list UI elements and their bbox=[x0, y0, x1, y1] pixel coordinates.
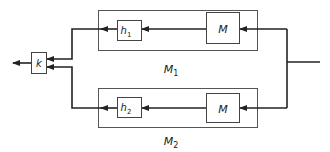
m-block-top-label: M bbox=[218, 23, 228, 36]
h1-subscript: 1 bbox=[127, 31, 131, 39]
k-block: k bbox=[32, 53, 47, 74]
h2-block: h2 bbox=[118, 98, 142, 118]
m-block-bottom: M bbox=[207, 94, 240, 123]
arrow-h2-to-k bbox=[47, 67, 117, 108]
svg-text:M2: M2 bbox=[164, 135, 179, 150]
group-m2-label: M bbox=[164, 135, 174, 148]
m-block-top: M bbox=[207, 13, 240, 44]
group-m1-subscript: 1 bbox=[173, 69, 178, 78]
h2-subscript: 2 bbox=[127, 108, 131, 116]
group-m2-subscript: 2 bbox=[173, 141, 178, 150]
m-block-bottom-label: M bbox=[218, 103, 228, 116]
group-m1-label: M bbox=[164, 63, 174, 76]
h1-block: h1 bbox=[118, 21, 142, 41]
arrow-h1-to-k bbox=[47, 29, 117, 59]
input-line bbox=[240, 29, 320, 108]
block-diagram: M M h1 h2 k M1 M2 bbox=[0, 0, 330, 152]
svg-text:M1: M1 bbox=[164, 63, 179, 78]
